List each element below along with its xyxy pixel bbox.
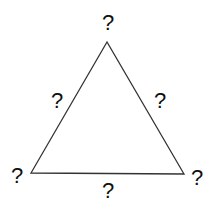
side-right-label: ? <box>154 88 166 113</box>
side-left-label: ? <box>51 88 63 113</box>
vertex-bottom-right-label: ? <box>191 165 203 190</box>
side-bottom-label: ? <box>102 178 114 203</box>
vertex-top-label: ? <box>102 10 114 35</box>
vertex-bottom-left-label: ? <box>11 163 23 188</box>
triangle-diagram: ? ? ? ? ? ? <box>0 0 217 211</box>
